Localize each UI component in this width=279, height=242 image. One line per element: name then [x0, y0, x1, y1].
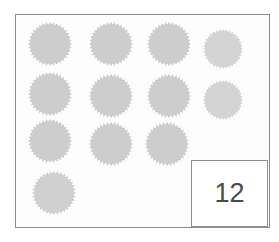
starburst-icon [28, 72, 72, 116]
starburst-icon [28, 119, 72, 163]
answer-box[interactable]: 12 [191, 160, 268, 227]
starburst-icon [28, 22, 72, 66]
starburst-icon [203, 29, 243, 69]
starburst-icon [147, 74, 191, 118]
starburst-icon [89, 22, 133, 66]
starburst-icon [89, 122, 133, 166]
starburst-icon [203, 80, 243, 120]
starburst-icon [32, 171, 76, 215]
starburst-icon [147, 22, 191, 66]
counting-worksheet: 12 [0, 0, 279, 242]
answer-value: 12 [214, 180, 244, 207]
starburst-icon [89, 74, 133, 118]
starburst-icon [145, 122, 189, 166]
